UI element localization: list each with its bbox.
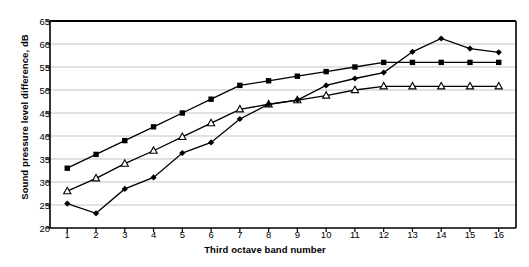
- series-squares-line: [67, 62, 498, 168]
- data-point-filled-square: [180, 110, 185, 115]
- x-axis-tick-label: 11: [343, 229, 367, 240]
- data-point-filled-diamond: [352, 75, 358, 81]
- data-point-filled-square: [151, 124, 156, 129]
- series-squares: [65, 60, 502, 171]
- x-axis-tick-label: 10: [314, 229, 338, 240]
- x-axis-tick-labels: 12345678910111213141516: [0, 229, 529, 245]
- x-axis-tick-label: 15: [458, 229, 482, 240]
- data-point-filled-diamond: [64, 201, 70, 207]
- data-point-filled-square: [237, 83, 242, 88]
- x-axis-tick-label: 14: [429, 229, 453, 240]
- x-axis-tick-label: 9: [285, 229, 309, 240]
- data-point-filled-diamond: [323, 82, 329, 88]
- data-series-layer: [64, 35, 503, 216]
- data-point-filled-square: [352, 64, 357, 69]
- series-diamonds-line: [67, 38, 498, 213]
- x-axis-tick-label: 7: [228, 229, 252, 240]
- plot-area: [0, 0, 529, 267]
- x-axis-tick-label: 13: [400, 229, 424, 240]
- x-axis-tick-label: 4: [142, 229, 166, 240]
- data-point-filled-square: [208, 97, 213, 102]
- x-axis-tick-label: 5: [170, 229, 194, 240]
- data-point-filled-square: [496, 60, 501, 65]
- x-axis-tick-label: 3: [113, 229, 137, 240]
- x-axis-tick-label: 16: [487, 229, 511, 240]
- data-point-filled-square: [439, 60, 444, 65]
- x-axis-tick-label: 12: [372, 229, 396, 240]
- data-point-filled-diamond: [438, 35, 444, 41]
- data-point-filled-square: [266, 78, 271, 83]
- axis-frame: [50, 21, 516, 228]
- x-axis-tick-label: 8: [257, 229, 281, 240]
- x-axis-tick-label: 6: [199, 229, 223, 240]
- data-point-filled-square: [323, 69, 328, 74]
- data-point-filled-square: [122, 138, 127, 143]
- gridlines: [50, 21, 516, 205]
- data-point-filled-square: [295, 74, 300, 79]
- data-point-filled-diamond: [496, 49, 502, 55]
- data-point-filled-square: [65, 166, 70, 171]
- data-point-filled-diamond: [467, 46, 473, 52]
- x-axis-tick-label: 1: [55, 229, 79, 240]
- chart-container: Sound pressure level difference, dB 2025…: [0, 0, 529, 267]
- x-axis-label: Third octave band number: [55, 244, 475, 255]
- data-point-filled-square: [381, 60, 386, 65]
- data-point-filled-square: [467, 60, 472, 65]
- data-point-filled-square: [410, 60, 415, 65]
- data-point-filled-square: [93, 152, 98, 157]
- x-axis-tick-label: 2: [84, 229, 108, 240]
